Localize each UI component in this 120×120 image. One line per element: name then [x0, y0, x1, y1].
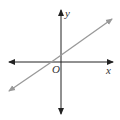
coordinate-plane: y O x — [0, 0, 120, 120]
y-axis-label: y — [64, 7, 70, 19]
origin-label: O — [52, 63, 60, 75]
x-axis-label: x — [105, 64, 111, 76]
